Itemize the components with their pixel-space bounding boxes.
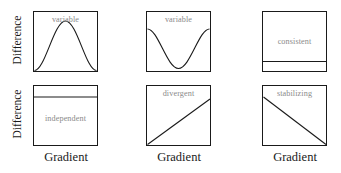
- panel-label: consistent: [262, 37, 327, 45]
- panel-label: stabilizing: [262, 90, 327, 98]
- panel-grid: variable variable consistent independent: [0, 0, 341, 173]
- panel-label: variable: [33, 16, 98, 24]
- panel-independent-flat: independent: [33, 85, 98, 146]
- figure-panel-grid: variable variable consistent independent: [0, 0, 341, 173]
- panel-divergent-rising: divergent: [146, 85, 211, 146]
- panel-stabilizing-falling: stabilizing: [262, 85, 327, 146]
- y-axis-label-row-1: Difference: [11, 83, 23, 145]
- panel-consistent-flat: consistent: [262, 11, 327, 72]
- x-axis-label-col-0: Gradient: [26, 150, 106, 165]
- panel-label: divergent: [146, 90, 211, 98]
- panel-variable-hump: variable: [33, 11, 98, 72]
- y-axis-label-row-0: Difference: [11, 9, 23, 71]
- x-axis-label-col-1: Gradient: [139, 150, 219, 165]
- panel-label: variable: [146, 16, 211, 24]
- panel-label: independent: [33, 115, 98, 123]
- panel-variable-valley: variable: [146, 11, 211, 72]
- x-axis-label-col-2: Gradient: [255, 150, 335, 165]
